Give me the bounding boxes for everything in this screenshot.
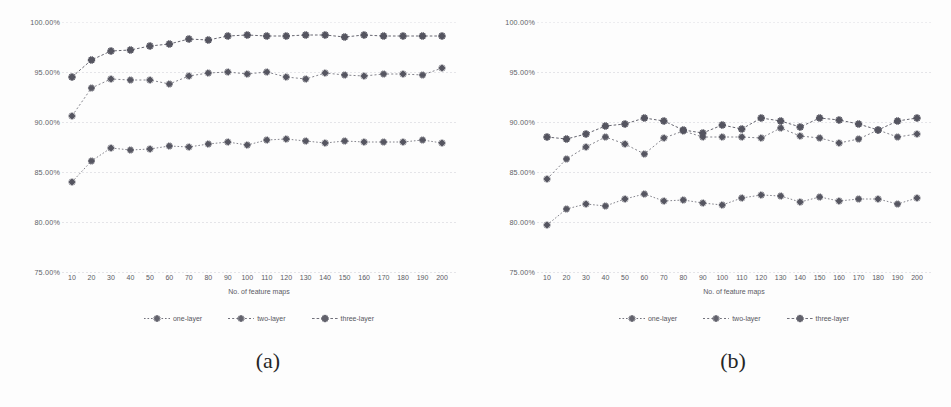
data-point-three-layer	[563, 136, 569, 142]
data-point-one-layer	[797, 199, 803, 205]
data-point-two-layer	[797, 133, 803, 139]
data-point-three-layer	[69, 74, 75, 80]
x-tick-label: 120	[280, 274, 292, 281]
data-point-one-layer	[700, 200, 706, 206]
data-point-two-layer	[758, 135, 764, 141]
data-point-one-layer	[817, 194, 823, 200]
x-tick-label: 170	[853, 274, 865, 281]
data-point-three-layer	[283, 33, 289, 39]
x-tick-label: 150	[339, 274, 351, 281]
data-point-one-layer	[661, 198, 667, 204]
x-tick-label: 170	[378, 274, 390, 281]
x-tick-label: 110	[736, 274, 747, 281]
data-point-two-layer	[264, 69, 270, 75]
data-point-two-layer	[583, 144, 589, 150]
x-tick-label: 150	[814, 274, 826, 281]
data-point-one-layer	[108, 145, 114, 151]
gridline	[62, 272, 456, 273]
legend-a: one-layertwo-layerthree-layer	[62, 314, 456, 322]
data-point-three-layer	[602, 123, 608, 129]
legend-item-three-layer[interactable]: three-layer	[787, 314, 849, 322]
legend-b: one-layertwo-layerthree-layer	[537, 314, 931, 322]
data-point-two-layer	[602, 134, 608, 140]
data-point-three-layer	[264, 33, 270, 39]
data-point-one-layer	[914, 195, 920, 201]
legend-label: two-layer	[732, 315, 760, 322]
data-point-two-layer	[108, 76, 114, 82]
data-point-three-layer	[361, 32, 367, 38]
legend-marker-icon	[228, 314, 254, 322]
legend-item-two-layer[interactable]: two-layer	[228, 314, 285, 322]
data-point-three-layer	[856, 121, 862, 127]
x-tick-label: 130	[300, 274, 312, 281]
data-point-one-layer	[186, 144, 192, 150]
legend-label: one-layer	[648, 315, 677, 322]
y-tick-label: 95.00%	[509, 68, 535, 77]
data-point-three-layer	[88, 57, 94, 63]
x-tick-label: 180	[872, 274, 884, 281]
x-axis-title-b: No. of feature maps	[537, 288, 931, 295]
data-point-two-layer	[817, 135, 823, 141]
legend-item-one-layer[interactable]: one-layer	[619, 314, 677, 322]
data-point-one-layer	[303, 138, 309, 144]
data-point-two-layer	[166, 81, 172, 87]
x-axis-labels-b: 1020304050607080901001101201301401501601…	[537, 274, 931, 288]
legend-label: three-layer	[341, 315, 374, 322]
data-point-one-layer	[875, 196, 881, 202]
data-point-three-layer	[322, 32, 328, 38]
data-point-three-layer	[700, 130, 706, 136]
data-point-one-layer	[719, 202, 725, 208]
x-tick-label: 140	[794, 274, 806, 281]
data-point-two-layer	[342, 72, 348, 78]
y-tick-label: 85.00%	[34, 168, 60, 177]
data-point-two-layer	[303, 76, 309, 82]
y-tick-label: 85.00%	[509, 168, 535, 177]
data-point-three-layer	[205, 37, 211, 43]
x-tick-label: 160	[833, 274, 845, 281]
gridline	[537, 272, 931, 273]
x-tick-label: 60	[640, 274, 648, 281]
data-point-one-layer	[322, 140, 328, 146]
legend-marker-icon	[787, 314, 813, 322]
data-point-three-layer	[641, 115, 647, 121]
data-point-three-layer	[719, 122, 725, 128]
data-point-one-layer	[127, 147, 133, 153]
legend-item-three-layer[interactable]: three-layer	[312, 314, 374, 322]
y-axis-labels-b: 100.00%95.00%90.00%85.00%80.00%75.00%	[493, 22, 537, 272]
legend-marker-icon	[312, 314, 338, 322]
legend-item-one-layer[interactable]: one-layer	[144, 314, 202, 322]
data-point-one-layer	[420, 137, 426, 143]
data-point-three-layer	[244, 32, 250, 38]
figure-panel-b: 100.00%95.00%90.00%85.00%80.00%75.00% 10…	[475, 0, 951, 407]
x-tick-label: 120	[755, 274, 767, 281]
data-point-two-layer	[322, 70, 328, 76]
x-axis-labels-a: 1020304050607080901001101201301401501601…	[62, 274, 456, 288]
data-point-one-layer	[147, 146, 153, 152]
data-point-three-layer	[739, 126, 745, 132]
series-layer-a	[62, 22, 456, 272]
data-point-three-layer	[108, 48, 114, 54]
data-point-one-layer	[856, 196, 862, 202]
data-point-three-layer	[622, 121, 628, 127]
data-point-three-layer	[758, 115, 764, 121]
series-layer-b	[537, 22, 931, 272]
panel-caption-a: (a)	[0, 348, 476, 374]
data-point-two-layer	[283, 74, 289, 80]
data-point-three-layer	[303, 32, 309, 38]
x-tick-label: 190	[892, 274, 904, 281]
data-point-one-layer	[205, 141, 211, 147]
x-tick-label: 140	[319, 274, 331, 281]
x-tick-label: 200	[911, 274, 923, 281]
figure-page: 100.00%95.00%90.00%85.00%80.00%75.00% 10…	[0, 0, 951, 407]
legend-label: three-layer	[816, 315, 849, 322]
series-line-one-layer	[72, 139, 442, 182]
plot-area-b	[537, 22, 931, 272]
data-point-one-layer	[69, 179, 75, 185]
legend-item-two-layer[interactable]: two-layer	[703, 314, 760, 322]
data-point-two-layer	[186, 73, 192, 79]
x-tick-label: 10	[543, 274, 551, 281]
data-point-three-layer	[895, 118, 901, 124]
data-point-one-layer	[544, 222, 550, 228]
data-point-three-layer	[225, 33, 231, 39]
data-point-three-layer	[166, 41, 172, 47]
